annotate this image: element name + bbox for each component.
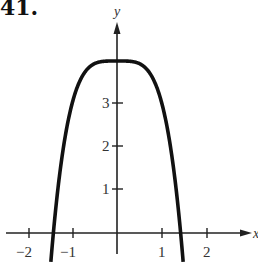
y-axis-label: y bbox=[112, 4, 121, 19]
x-tick-label-1: 1 bbox=[158, 244, 166, 260]
y-tick-label-3: 3 bbox=[102, 95, 110, 111]
x-tick-label-neg1: −1 bbox=[60, 244, 76, 260]
x-tick-label-neg2: −2 bbox=[16, 244, 32, 260]
y-axis-arrow-icon bbox=[114, 22, 121, 34]
x-axis-arrow-icon bbox=[240, 230, 252, 237]
x-axis-label: x bbox=[252, 226, 258, 241]
x-tick-label-2: 2 bbox=[203, 244, 211, 260]
y-tick-label-2: 2 bbox=[102, 138, 110, 154]
y-tick-label-1: 1 bbox=[102, 181, 110, 197]
graph: x y −2 −1 1 2 1 2 3 bbox=[0, 0, 258, 265]
